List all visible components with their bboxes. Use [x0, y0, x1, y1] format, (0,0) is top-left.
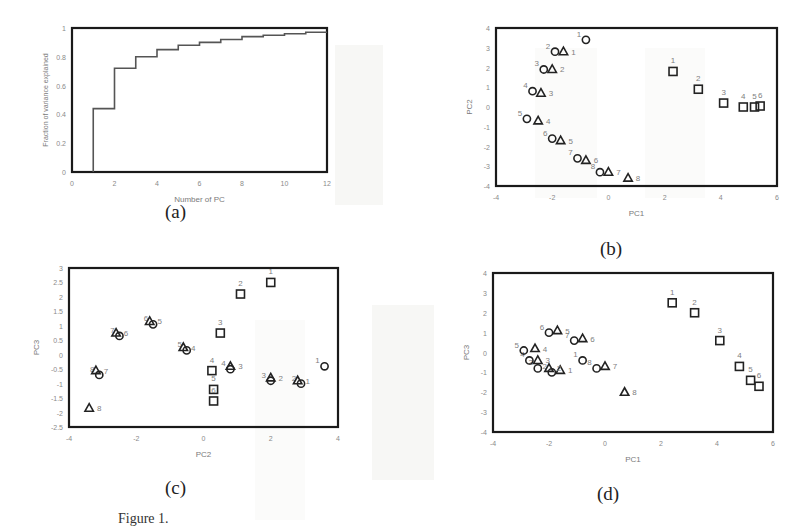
y-tick-label: -4 — [484, 183, 490, 190]
y-tick-label: 1 — [483, 330, 487, 337]
x-tick-label: 10 — [281, 180, 289, 187]
point-label: 1 — [577, 30, 582, 39]
x-tick-label: -2 — [133, 435, 139, 442]
point-label: 4 — [543, 345, 548, 354]
point-label: 8 — [97, 404, 102, 413]
square-marker — [755, 382, 763, 390]
y-tick-label: 1 — [59, 323, 63, 330]
circle-marker — [551, 48, 558, 55]
point-label: 3 — [718, 326, 723, 335]
point-label: 4 — [741, 92, 746, 101]
y-tick-label: -2 — [484, 144, 490, 151]
point-label: 5 — [568, 137, 573, 146]
point-label: 6 — [540, 323, 545, 332]
x-tick-label: 4 — [155, 180, 159, 187]
square-marker — [735, 362, 743, 370]
point-label: 8 — [636, 174, 641, 183]
x-tick-label: -4 — [66, 435, 72, 442]
x-tick-label: 0 — [606, 194, 610, 201]
point-label: 4 — [210, 356, 215, 365]
triangle-marker — [537, 89, 545, 97]
point-label: 7 — [616, 168, 621, 177]
y-axis-label: PC2 — [465, 99, 474, 115]
plot-frame — [72, 28, 327, 172]
y-tick-label: 1 — [486, 84, 490, 91]
square-marker — [236, 290, 244, 298]
circle-marker — [571, 337, 578, 344]
x-tick-label: 2 — [659, 440, 663, 447]
x-tick-label: -4 — [490, 440, 496, 447]
y-tick-label: -3 — [481, 409, 487, 416]
point-label: 6 — [594, 156, 599, 165]
y-tick-label: 2.5 — [53, 279, 63, 286]
circle-marker — [523, 115, 530, 122]
point-label: 6 — [543, 129, 548, 138]
x-tick-label: -2 — [546, 440, 552, 447]
circle-marker — [534, 365, 541, 372]
point-label: 6 — [211, 386, 216, 395]
y-tick-label: 0.6 — [56, 83, 66, 90]
figure-caption: Figure 1. — [118, 511, 169, 527]
triangle-marker — [534, 116, 542, 124]
circle-marker — [549, 135, 556, 142]
circle-marker — [545, 329, 552, 336]
point-label: 3 — [721, 88, 726, 97]
square-marker — [747, 376, 755, 384]
point-label: 1 — [315, 356, 320, 365]
x-tick-label: 12 — [323, 180, 331, 187]
triangle-marker — [85, 404, 93, 412]
triangle-marker — [553, 326, 561, 334]
point-label: 8 — [587, 358, 592, 367]
point-label: 4 — [523, 81, 528, 90]
point-label: 5 — [515, 341, 520, 350]
point-label: 1 — [305, 377, 310, 386]
triangle-marker — [548, 65, 556, 73]
point-label: 3 — [549, 89, 554, 98]
y-tick-label: 2 — [483, 310, 487, 317]
point-label: 5 — [211, 374, 216, 383]
y-tick-label: 1.5 — [53, 308, 63, 315]
point-label: 3 — [262, 371, 267, 380]
chart-panel-a: 02468101200.20.40.60.81Number of PCFract… — [42, 25, 331, 204]
x-tick-label: -2 — [549, 194, 555, 201]
panel-label-c: (c) — [165, 477, 186, 499]
y-tick-label: 0 — [483, 350, 487, 357]
y-tick-label: -4 — [481, 429, 487, 436]
x-tick-label: 6 — [775, 194, 779, 201]
triangle-marker — [559, 47, 567, 55]
triangle-marker — [556, 136, 564, 144]
triangle-marker — [620, 388, 628, 396]
point-label: 2 — [546, 42, 551, 51]
point-label: 3 — [238, 362, 243, 371]
triangle-marker — [578, 334, 586, 342]
point-label: 5 — [157, 317, 162, 326]
circle-marker — [574, 155, 581, 162]
point-label: 5 — [748, 365, 753, 374]
y-tick-label: -1 — [57, 381, 63, 388]
y-tick-label: 3 — [486, 45, 490, 52]
plot-frame — [496, 28, 777, 186]
point-label: 8 — [632, 388, 637, 397]
point-label: 2 — [692, 298, 697, 307]
y-tick-label: 4 — [486, 25, 490, 32]
circle-marker — [540, 66, 547, 73]
y-tick-label: -3 — [484, 163, 490, 170]
panel-label-d: (d) — [597, 483, 619, 505]
square-marker — [691, 309, 699, 317]
circle-marker — [579, 357, 586, 364]
point-label: 3 — [535, 59, 540, 68]
x-axis-label: PC1 — [629, 209, 645, 218]
x-tick-label: 2 — [113, 180, 117, 187]
point-label: 3 — [546, 356, 551, 365]
point-label: 2 — [279, 374, 284, 383]
y-tick-label: 0 — [486, 104, 490, 111]
square-marker — [216, 329, 224, 337]
y-tick-label: -1 — [484, 124, 490, 131]
point-label: 1 — [568, 366, 573, 375]
x-tick-label: 2 — [269, 435, 273, 442]
x-tick-label: 4 — [715, 440, 719, 447]
x-tick-label: 2 — [663, 194, 667, 201]
point-label: 7 — [104, 367, 109, 376]
triangle-marker — [534, 356, 542, 364]
